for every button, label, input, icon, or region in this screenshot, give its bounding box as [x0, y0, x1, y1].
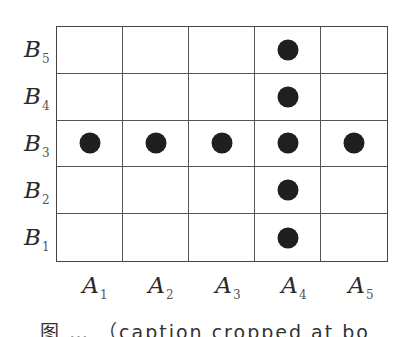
cell-a5-b3 [321, 121, 387, 168]
cell-a4-b2 [255, 167, 321, 214]
cell-a4-b4 [255, 74, 321, 121]
cell-a3-b5 [189, 27, 255, 74]
cell-a4-b1 [255, 214, 321, 261]
col-label-a4: A4 [274, 274, 314, 297]
row-label-b4: B4 [24, 85, 54, 108]
row-label-b2: B2 [24, 179, 54, 202]
cell-a4-b5 [255, 27, 321, 74]
cell-a3-b4 [189, 74, 255, 121]
row-label-b1: B1 [24, 226, 54, 249]
cell-a1-b3 [57, 121, 123, 168]
cell-a2-b2 [123, 167, 189, 214]
dot-marker [344, 133, 365, 154]
cell-a3-b1 [189, 214, 255, 261]
dot-marker [211, 133, 232, 154]
cell-a5-b2 [321, 167, 387, 214]
dot-marker [277, 39, 298, 60]
cell-a2-b1 [123, 214, 189, 261]
cell-a5-b5 [321, 27, 387, 74]
dot-marker [79, 133, 100, 154]
cell-a1-b1 [57, 214, 123, 261]
dot-marker [277, 180, 298, 201]
cell-a1-b2 [57, 167, 123, 214]
cell-a2-b4 [123, 74, 189, 121]
dot-marker [277, 86, 298, 107]
cell-a4-b3 [255, 121, 321, 168]
row-label-b5: B5 [24, 38, 54, 61]
dot-marker [277, 227, 298, 248]
cell-a1-b4 [57, 74, 123, 121]
col-label-a3: A3 [208, 274, 248, 297]
cell-a2-b3 [123, 121, 189, 168]
cell-a3-b2 [189, 167, 255, 214]
cell-a2-b5 [123, 27, 189, 74]
col-label-a2: A2 [141, 274, 181, 297]
col-label-a1: A1 [75, 274, 115, 297]
dot-marker [145, 133, 166, 154]
col-label-a5: A5 [341, 274, 381, 297]
figure-caption: 图 … （caption cropped at bottom edge） [40, 317, 370, 337]
cell-a1-b5 [57, 27, 123, 74]
cell-a5-b4 [321, 74, 387, 121]
row-label-b3: B3 [24, 132, 54, 155]
dot-marker [277, 133, 298, 154]
grid [56, 26, 388, 262]
cell-a3-b3 [189, 121, 255, 168]
cell-a5-b1 [321, 214, 387, 261]
